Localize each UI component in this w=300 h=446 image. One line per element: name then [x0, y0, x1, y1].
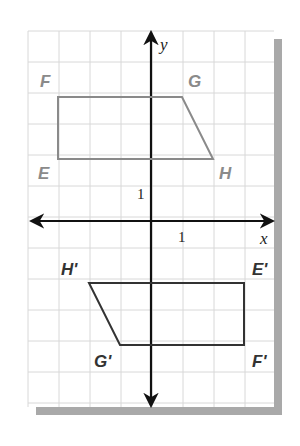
vertex-label-h: H: [219, 164, 232, 183]
coordinate-plane-figure: y x 1 1 FGHEH'E'F'G': [0, 0, 300, 446]
vertex-label-e: E: [38, 164, 50, 183]
x-axis-label: x: [259, 229, 268, 248]
vertex-label-f-prime: F': [252, 352, 267, 371]
vertex-label-f: F: [40, 72, 51, 91]
y-tick-label: 1: [137, 186, 145, 202]
vertex-label-h-prime: H': [61, 260, 78, 279]
x-tick-label: 1: [178, 229, 186, 245]
vertex-label-e-prime: E': [252, 260, 268, 279]
vertex-label-g-prime: G': [94, 352, 112, 371]
vertex-label-g: G: [188, 72, 201, 91]
y-axis-label: y: [158, 35, 168, 54]
